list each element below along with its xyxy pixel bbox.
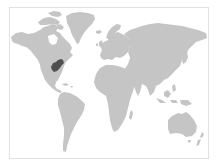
region-new-zealand[interactable] bbox=[196, 132, 204, 146]
region-tasmania[interactable] bbox=[188, 140, 191, 143]
region-greenland[interactable] bbox=[66, 12, 95, 44]
region-south-america[interactable] bbox=[58, 92, 85, 152]
region-southeast-asia-islands[interactable] bbox=[156, 84, 192, 106]
world-map bbox=[0, 0, 222, 168]
region-caribbean[interactable] bbox=[62, 83, 73, 88]
region-australia[interactable] bbox=[168, 112, 197, 137]
region-madagascar[interactable] bbox=[129, 110, 133, 120]
region-europe[interactable] bbox=[100, 32, 130, 60]
region-iceland[interactable] bbox=[96, 30, 102, 34]
region-north-america[interactable] bbox=[11, 24, 73, 93]
region-asia[interactable] bbox=[124, 23, 207, 96]
